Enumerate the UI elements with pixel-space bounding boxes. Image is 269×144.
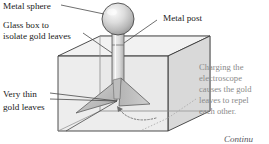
label-gold-leaves-line1: Very thin: [3, 89, 37, 99]
label-gold-leaves-line2: gold leaves: [3, 102, 45, 112]
continued-note: Continu: [224, 134, 254, 144]
caption-line2: electroscope: [199, 73, 242, 83]
leader-metal-sphere: [61, 5, 104, 14]
caption-line3: causes the gold: [199, 84, 252, 94]
metal-sphere: [102, 3, 134, 35]
caption-line1: Charging the: [199, 62, 244, 72]
label-glass-box-line1: Glass box to: [3, 20, 49, 30]
gold-leaf-pivot: [113, 78, 121, 99]
sphere-specular-highlight: [107, 8, 117, 15]
glass-box: [58, 36, 210, 131]
caption-line4: leaves to repel: [199, 95, 249, 105]
label-metal-sphere: Metal sphere: [3, 1, 51, 11]
label-glass-box-line2: isolate gold leaves: [3, 31, 71, 41]
sphere-body: [102, 3, 134, 35]
electroscope-figure: Metal sphere Glass box to isolate gold l…: [0, 0, 269, 144]
caption-line5: each other.: [199, 106, 236, 116]
label-metal-post: Metal post: [163, 13, 202, 23]
